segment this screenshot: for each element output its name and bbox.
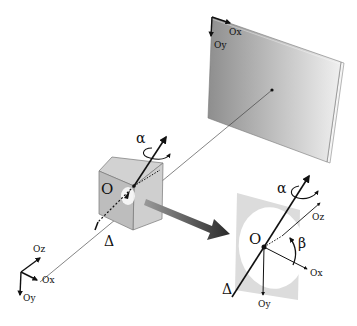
world-x-label: Ox <box>42 275 54 285</box>
screen-y-label: Oy <box>214 40 227 50</box>
detail-x-label: Ox <box>310 268 322 278</box>
cube-delta-label: Δ <box>104 233 114 249</box>
detail-view: α O β Δ Oz Ox Oy <box>222 176 324 309</box>
screen-y-arrow-icon <box>211 17 212 36</box>
world-z-label: Oz <box>33 244 45 254</box>
world-y-label: Oy <box>23 293 36 303</box>
screen-projection-point <box>270 88 273 91</box>
detail-alpha-label: α <box>277 180 287 196</box>
cube-alpha-label: α <box>136 130 146 146</box>
projection-diagram: Ox Oy O α Δ <box>0 0 357 326</box>
screen-x-label: Ox <box>229 27 241 37</box>
cube: O <box>98 157 163 230</box>
detail-beta-label: β <box>298 235 306 251</box>
detail-y-label: Oy <box>258 299 271 309</box>
rotation-arrow-icon <box>143 148 170 159</box>
cube-origin-label: O <box>101 180 113 198</box>
screen-panel <box>208 17 344 163</box>
world-axes: Oz Ox Oy <box>20 244 54 303</box>
detail-z-label: Oz <box>312 212 324 222</box>
detail-origin-label: O <box>249 230 261 248</box>
detail-rotation-arrow-icon <box>291 186 318 199</box>
detail-delta-label: Δ <box>222 281 232 297</box>
